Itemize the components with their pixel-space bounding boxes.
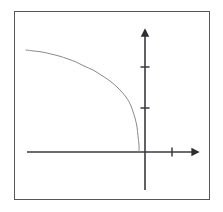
y-axis-group	[141, 36, 150, 190]
figure-root	[0, 0, 223, 212]
x-axis-group	[27, 148, 192, 157]
graph-canvas	[0, 0, 223, 212]
data-curve	[26, 50, 139, 152]
data-curve-group	[26, 50, 139, 152]
